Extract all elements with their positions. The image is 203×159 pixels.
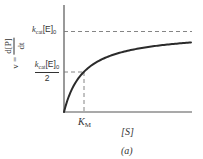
half-vmax-numerator: kcat[E]0 [35,60,59,73]
ylabel-lhs: v = [9,57,19,69]
michaelis-menten-curve [64,42,191,112]
y-axis-label: v = d[P] dt [0,18,28,88]
x-axis-label: [S] [121,127,134,137]
enzyme-symbol: [E] [45,59,55,69]
km-symbol: K [78,116,85,127]
ylabel-denominator: dt [15,43,26,50]
zero-subscript: 0 [56,64,59,70]
zero-subscript: 0 [53,29,56,35]
ylabel-fraction: d[P] dt [3,37,26,55]
xtick-km-label: KM [78,117,91,129]
ytick-half-vmax-label: kcat[E]0 2 [32,60,62,82]
half-vmax-denominator: 2 [45,73,50,83]
km-subscript: M [85,121,91,129]
panel-label: (a) [121,146,133,156]
plot-area [0,0,203,159]
cat-subscript: cat [36,29,43,35]
panel-letter: (a) [121,145,133,156]
enzyme-symbol: [E] [43,24,53,34]
ylabel-numerator: d[P] [3,37,15,55]
ytick-vmax-label: kcat[E]0 [32,25,56,36]
substrate-label: [S] [121,126,134,137]
